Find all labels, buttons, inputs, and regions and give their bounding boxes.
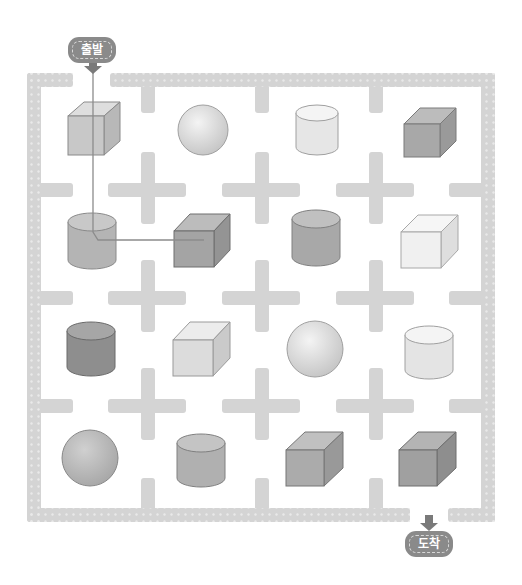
cell-r4c2-cylinder[interactable] xyxy=(177,434,225,487)
cell-r1c1-cube[interactable] xyxy=(68,102,120,155)
cell-r1c2-sphere[interactable] xyxy=(178,105,228,155)
cell-r1c3-cylinder[interactable] xyxy=(296,105,338,155)
cell-r3c1-cylinder[interactable] xyxy=(67,322,115,376)
cell-r4c1-sphere[interactable] xyxy=(62,430,118,486)
end-arrow-icon xyxy=(420,515,438,531)
cell-r1c4-cube[interactable] xyxy=(404,108,456,157)
maze-board xyxy=(0,0,522,585)
start-label: 출발 xyxy=(69,38,115,62)
end-label: 도착 xyxy=(406,532,452,556)
cell-r3c4-cylinder[interactable] xyxy=(405,326,453,379)
cell-r3c2-cube[interactable] xyxy=(173,322,230,376)
cell-r4c4-cube[interactable] xyxy=(399,432,456,486)
cell-r2c3-cylinder[interactable] xyxy=(292,210,340,266)
cell-r4c3-cube[interactable] xyxy=(286,432,343,486)
cell-r2c1-cylinder[interactable] xyxy=(68,213,116,269)
cell-r3c3-sphere[interactable] xyxy=(287,321,343,377)
cell-r2c4-cube[interactable] xyxy=(401,215,458,268)
